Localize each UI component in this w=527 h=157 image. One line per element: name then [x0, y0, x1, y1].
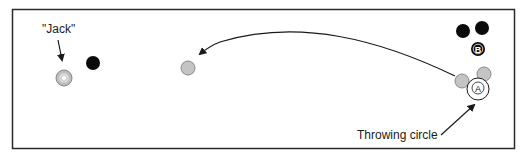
player-b-ball: B — [471, 42, 485, 56]
jack-ball — [56, 70, 72, 86]
gray-ball-right-1 — [455, 74, 469, 88]
black-ball-right-1 — [456, 24, 470, 38]
player-a-label: A — [475, 84, 481, 94]
black-ball-right-2 — [475, 21, 489, 35]
throwing-circle-label: Throwing circle — [357, 128, 438, 142]
black-ball-near-jack — [86, 56, 100, 70]
player-b-label: B — [475, 45, 482, 55]
throwing-circle: A — [467, 78, 489, 100]
diagram-canvas: "Jack" B A — [0, 0, 527, 157]
jack-label: "Jack" — [42, 22, 75, 36]
court-border — [13, 10, 515, 149]
gray-ball-thrown — [181, 61, 195, 75]
